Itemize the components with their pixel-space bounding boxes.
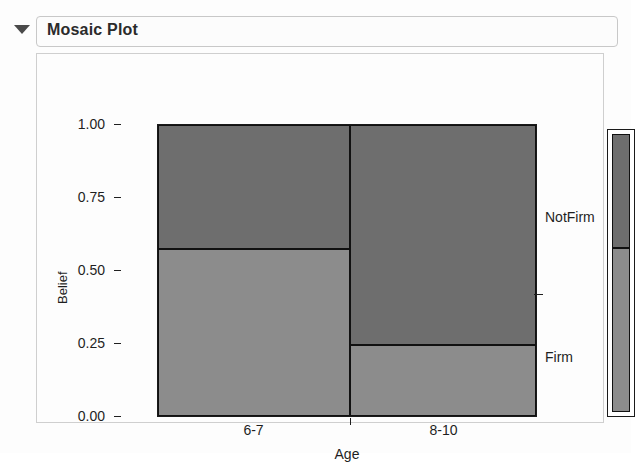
- page-title: Mosaic Plot: [47, 21, 138, 39]
- y-tick-label-0-00: 0.00: [59, 408, 105, 424]
- right-axis-tick-mark: [534, 294, 543, 295]
- y-tick-mark-1-00: [114, 124, 121, 125]
- right-label-notfirm: NotFirm: [545, 209, 595, 225]
- mosaic-cell-8-10-firm[interactable]: [350, 345, 536, 416]
- graph-frame: 1.00 0.75 0.50 0.25 0.00 Belief 6-7 8-10…: [36, 53, 604, 423]
- y-tick-label-0-75: 0.75: [59, 189, 105, 205]
- y-axis-label: Belief: [55, 271, 70, 304]
- y-tick-mark-0-75: [114, 197, 121, 198]
- x-tick-label-8-10: 8-10: [350, 422, 537, 438]
- mosaic-cell-6-7-notfirm[interactable]: [158, 125, 350, 249]
- mosaic-cell-8-10-notfirm[interactable]: [350, 125, 536, 345]
- y-tick-mark-0-50: [114, 270, 121, 271]
- panel-title-box[interactable]: Mosaic Plot: [36, 16, 618, 47]
- mosaic-canvas: [157, 124, 537, 417]
- y-tick-mark-0-25: [114, 343, 121, 344]
- y-tick-mark-0-00: [114, 416, 121, 417]
- mosaic-cell-6-7-firm[interactable]: [158, 249, 350, 416]
- y-tick-label-1-00: 1.00: [59, 116, 105, 132]
- triangle-down-icon[interactable]: [14, 25, 30, 34]
- x-tick-label-6-7: 6-7: [157, 422, 350, 438]
- panel-title-row: Mosaic Plot: [14, 16, 618, 48]
- right-label-firm: Firm: [545, 349, 573, 365]
- legend-cell-notfirm[interactable]: [612, 134, 630, 248]
- legend-cell-firm[interactable]: [612, 248, 630, 412]
- y-tick-label-0-25: 0.25: [59, 335, 105, 351]
- legend-proportion-strip: [607, 129, 635, 417]
- x-axis-label: Age: [157, 446, 537, 462]
